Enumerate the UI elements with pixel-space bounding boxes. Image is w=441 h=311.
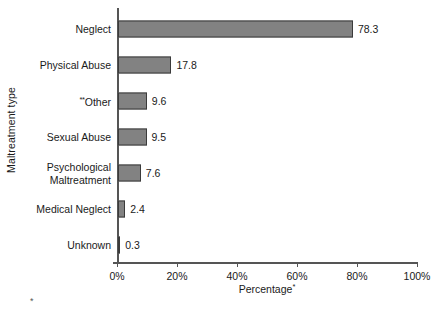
bar-row: Unknown0.3	[117, 227, 417, 263]
bar-rect	[118, 93, 147, 110]
x-axis-tick-label: 60%	[286, 270, 307, 282]
x-axis-tick	[177, 262, 178, 267]
x-axis-tick	[357, 262, 358, 267]
bar-rect	[118, 165, 141, 182]
bar-rect	[118, 237, 120, 254]
x-axis-tick	[297, 262, 298, 267]
bar-row: PsychologicalMaltreatment7.6	[117, 155, 417, 191]
bar-category-label: Unknown	[67, 239, 111, 252]
bar-category-label: PsychologicalMaltreatment	[47, 161, 111, 186]
x-axis-tick	[237, 262, 238, 267]
x-axis-title-note: *	[292, 282, 295, 291]
x-axis-title-text: Percentage	[239, 283, 293, 295]
bar-row: Neglect78.3	[117, 11, 417, 47]
bar-category-label: Sexual Abuse	[47, 131, 111, 144]
bar-row: **Other9.6	[117, 83, 417, 119]
x-axis-tick-label: 0%	[109, 270, 124, 282]
bar-value-label: 0.3	[125, 239, 140, 251]
category-note-mark: **	[79, 95, 84, 104]
bar-rect	[118, 129, 147, 146]
plot-area: Neglect78.3Physical Abuse17.8**Other9.6S…	[117, 8, 417, 262]
bar-category-label: Medical Neglect	[36, 203, 111, 216]
footnote-mark: *	[30, 296, 34, 306]
bar-value-label: 2.4	[130, 203, 145, 215]
bar-chart: Maltreatment type Neglect78.3Physical Ab…	[0, 0, 441, 311]
bar-category-label: **Other	[79, 94, 111, 109]
x-axis-tick	[417, 262, 418, 267]
bar-category-label: Physical Abuse	[40, 59, 111, 72]
bar-value-label: 9.6	[152, 95, 167, 107]
bar-rect	[118, 57, 171, 74]
bar-row: Physical Abuse17.8	[117, 47, 417, 83]
x-axis-title: Percentage*	[117, 282, 417, 295]
bar-rect	[118, 201, 125, 218]
bar-row: Medical Neglect2.4	[117, 191, 417, 227]
bar-value-label: 78.3	[358, 23, 378, 35]
x-axis-tick	[117, 262, 118, 267]
bar-value-label: 7.6	[146, 167, 161, 179]
x-axis-tick-label: 80%	[346, 270, 367, 282]
bar-rect	[118, 21, 353, 38]
bar-category-label: Neglect	[75, 23, 111, 36]
x-axis-tick-label: 40%	[226, 270, 247, 282]
y-axis-title-text: Maltreatment type	[5, 87, 17, 173]
x-axis-tick-label: 100%	[404, 270, 431, 282]
bar-value-label: 17.8	[176, 59, 196, 71]
bar-value-label: 9.5	[152, 131, 167, 143]
y-axis-title: Maltreatment type	[0, 0, 22, 260]
bar-row: Sexual Abuse9.5	[117, 119, 417, 155]
x-axis-tick-label: 20%	[166, 270, 187, 282]
